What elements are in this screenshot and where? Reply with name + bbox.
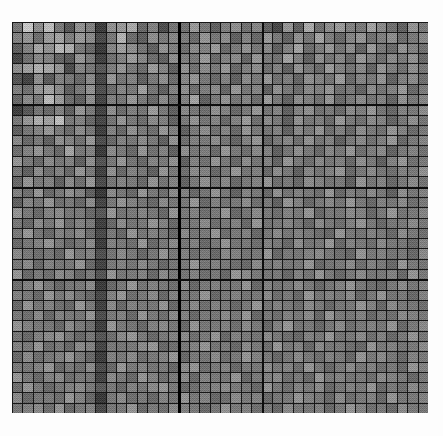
heatmap-plot-area bbox=[12, 22, 428, 413]
figure-page bbox=[0, 0, 443, 436]
heatmap-canvas bbox=[12, 22, 428, 413]
